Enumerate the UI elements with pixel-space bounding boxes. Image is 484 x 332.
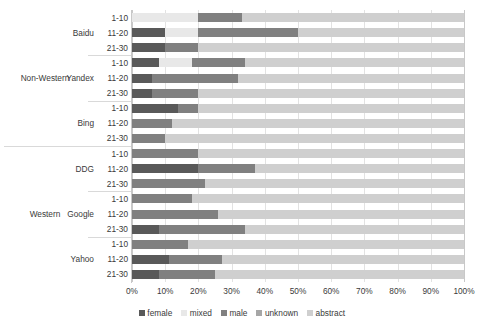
bar-row: [132, 149, 464, 158]
rank-label-ddg-21-30: 21-30: [94, 179, 128, 189]
bar-segment-abstract: [198, 104, 464, 113]
bar-segment-abstract: [215, 270, 464, 279]
bar-row: [132, 134, 464, 143]
bar-segment-male: [198, 28, 298, 37]
engine-separator: [88, 191, 132, 192]
engine-label-baidu: Baidu: [28, 28, 94, 38]
bar-row: [132, 255, 464, 264]
bar-row: [132, 194, 464, 203]
bar-segment-abstract: [165, 134, 464, 143]
legend-swatch-unknown: [256, 310, 262, 316]
rank-label-google-11-20: 11-20: [94, 209, 128, 219]
legend-item-male[interactable]: male: [221, 308, 247, 318]
engine-separator: [88, 237, 132, 238]
legend-swatch-mixed: [181, 310, 187, 316]
bar-segment-abstract: [192, 194, 464, 203]
bar-segment-male: [165, 43, 198, 52]
chart-legend: femalemixedmaleunknownabstract: [0, 306, 484, 320]
rank-label-yandex-11-20: 11-20: [94, 73, 128, 83]
rank-label-yandex-21-30: 21-30: [94, 88, 128, 98]
rank-label-google-1-10: 1-10: [94, 194, 128, 204]
bar-segment-abstract: [198, 149, 464, 158]
bar-segment-female: [132, 270, 159, 279]
bar-row: [132, 119, 464, 128]
bar-segment-male: [169, 255, 222, 264]
legend-item-abstract[interactable]: abstract: [307, 308, 345, 318]
bar-segment-abstract: [222, 255, 464, 264]
bar-row: [132, 270, 464, 279]
legend-label-mixed: mixed: [190, 308, 212, 318]
bar-row: [132, 28, 464, 37]
category-axis: 1-1011-20Baidu21-301-1011-20Yandex21-301…: [0, 10, 132, 282]
bar-row: [132, 210, 464, 219]
group-label-non-western: Non-Western: [2, 73, 88, 83]
stacked-bar-chart: 1-1011-20Baidu21-301-1011-20Yandex21-301…: [0, 0, 484, 332]
rank-label-bing-1-10: 1-10: [94, 103, 128, 113]
bar-segment-mixed: [165, 28, 198, 37]
bar-segment-male: [198, 13, 241, 22]
bar-segment-male: [132, 179, 205, 188]
rank-label-yahoo-21-30: 21-30: [94, 269, 128, 279]
bar-row: [132, 43, 464, 52]
legend-swatch-abstract: [307, 310, 313, 316]
bar-segment-mixed: [132, 13, 198, 22]
rank-label-baidu-1-10: 1-10: [94, 13, 128, 23]
bar-segment-female: [132, 28, 165, 37]
x-tick-label-100: 100%: [444, 286, 484, 296]
bar-row: [132, 240, 464, 249]
gridline-100: [464, 10, 465, 282]
bar-segment-male: [132, 240, 188, 249]
bar-row: [132, 104, 464, 113]
bar-segment-abstract: [245, 58, 464, 67]
legend-item-female[interactable]: female: [139, 308, 172, 318]
rank-label-bing-21-30: 21-30: [94, 133, 128, 143]
plot-area: [132, 10, 464, 282]
bar-segment-abstract: [242, 13, 464, 22]
bar-segment-male: [159, 270, 215, 279]
bar-segment-male: [132, 134, 165, 143]
bar-row: [132, 164, 464, 173]
bar-segment-abstract: [188, 240, 464, 249]
rank-label-yahoo-11-20: 11-20: [94, 254, 128, 264]
legend-label-male: male: [229, 308, 247, 318]
bar-segment-female: [132, 164, 198, 173]
group-separator: [4, 146, 132, 147]
legend-swatch-male: [221, 310, 227, 316]
bar-segment-male: [132, 194, 192, 203]
group-label-western: Western: [2, 209, 88, 219]
rank-label-baidu-11-20: 11-20: [94, 28, 128, 38]
legend-item-mixed[interactable]: mixed: [181, 308, 212, 318]
bar-segment-male: [152, 89, 198, 98]
bar-segment-abstract: [198, 43, 464, 52]
bar-segment-female: [132, 58, 159, 67]
bar-segment-male: [192, 58, 245, 67]
bar-segment-male: [132, 119, 172, 128]
bar-segment-male: [198, 164, 254, 173]
bar-segment-abstract: [218, 210, 464, 219]
bar-row: [132, 74, 464, 83]
legend-label-female: female: [147, 308, 172, 318]
legend-item-unknown[interactable]: unknown: [256, 308, 298, 318]
bar-segment-abstract: [205, 179, 464, 188]
bar-row: [132, 89, 464, 98]
rank-label-google-21-30: 21-30: [94, 224, 128, 234]
bar-segment-abstract: [298, 28, 464, 37]
legend-swatch-female: [139, 310, 145, 316]
legend-label-abstract: abstract: [316, 308, 346, 318]
engine-separator: [88, 101, 132, 102]
bar-row: [132, 179, 464, 188]
rank-label-baidu-21-30: 21-30: [94, 43, 128, 53]
bar-segment-male: [159, 225, 245, 234]
bar-segment-abstract: [172, 119, 464, 128]
bar-segment-abstract: [198, 89, 464, 98]
value-axis: 0%10%20%30%40%50%60%70%80%90%100%: [0, 286, 484, 300]
bar-segment-female: [132, 225, 159, 234]
bar-segment-female: [132, 43, 165, 52]
bar-segment-male: [132, 210, 218, 219]
bar-segment-female: [132, 74, 152, 83]
engine-label-ddg: DDG: [28, 164, 94, 174]
engine-separator: [88, 55, 132, 56]
rank-label-ddg-1-10: 1-10: [94, 149, 128, 159]
bar-segment-male: [152, 74, 238, 83]
bar-row: [132, 13, 464, 22]
